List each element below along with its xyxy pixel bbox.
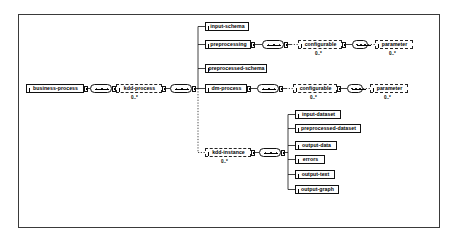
expander-dm-process[interactable] <box>247 86 251 92</box>
node-label: errors <box>303 157 318 162</box>
sequence-compositor-configurable-bottom[interactable] <box>347 84 363 93</box>
node-label: dm-process <box>212 86 242 91</box>
expander-business-process[interactable] <box>84 86 88 92</box>
node-label: input-schema <box>210 24 244 29</box>
sequence-compositor-kdd-process[interactable] <box>170 84 192 93</box>
element-marker-icon <box>298 128 300 132</box>
expander-kdd-process[interactable] <box>162 86 166 92</box>
node-kdd-process[interactable]: kdd-process <box>116 84 162 93</box>
node-parameter-top[interactable]: parameter <box>375 40 413 49</box>
element-marker-icon <box>208 88 210 92</box>
expander-kdd-instance[interactable] <box>251 150 255 156</box>
cardinality-kdd-process: 0..* <box>131 95 138 100</box>
sequence-compositor-business-process[interactable] <box>90 84 112 93</box>
node-label: kdd-process <box>124 86 155 91</box>
node-input-dataset[interactable]: input-dataset <box>295 110 341 119</box>
sequence-compositor-dm-process[interactable] <box>257 84 279 93</box>
node-parameter-bottom[interactable]: parameter <box>370 84 408 93</box>
node-label: parameter <box>377 86 403 91</box>
node-errors[interactable]: errors <box>295 155 325 164</box>
element-marker-icon <box>298 114 300 118</box>
node-configurable-bottom[interactable]: configurable <box>293 84 337 93</box>
expander-configurable-bottom[interactable] <box>337 86 341 92</box>
element-marker-icon <box>298 174 300 178</box>
connector-seq-kdd-process-out[interactable] <box>192 86 196 92</box>
element-marker-icon <box>301 44 303 48</box>
element-marker-icon <box>298 159 300 163</box>
node-label: output-graph <box>301 187 334 192</box>
element-marker-icon <box>119 88 121 92</box>
cardinality-parameter-top: 0..* <box>389 51 396 56</box>
connector-seq-dm-process-out[interactable] <box>279 86 283 92</box>
node-output-data[interactable]: output-data <box>295 141 337 150</box>
node-preprocessing[interactable]: preprocessing <box>205 40 251 49</box>
node-preprocessed-dataset[interactable]: preprocessed-dataset <box>295 124 361 133</box>
connector-seq-preprocessing-out[interactable] <box>284 42 288 48</box>
element-marker-icon <box>378 44 380 48</box>
node-output-text[interactable]: output-text <box>295 170 335 179</box>
sequence-compositor-kdd-instance[interactable] <box>259 148 281 157</box>
connector-seq-kdd-instance-out[interactable] <box>281 150 285 156</box>
node-label: output-data <box>302 143 331 148</box>
schema-diagram-page: business-process kdd-process 0..* input-… <box>0 0 458 240</box>
expander-preprocessing[interactable] <box>251 42 255 48</box>
node-label: kdd-instance <box>212 150 245 155</box>
element-marker-icon <box>296 88 298 92</box>
cardinality-kdd-instance: 0..* <box>221 159 228 164</box>
node-business-process[interactable]: business-process <box>26 84 84 93</box>
node-label: business-process <box>33 86 78 91</box>
sequence-compositor-preprocessing[interactable] <box>262 40 284 49</box>
cardinality-configurable-bottom: 0..* <box>310 95 317 100</box>
node-output-graph[interactable]: output-graph <box>295 185 339 194</box>
element-marker-icon <box>208 44 210 48</box>
cardinality-parameter-bottom: 0..* <box>384 95 391 100</box>
node-kdd-instance[interactable]: kdd-instance <box>205 148 251 157</box>
sequence-compositor-configurable-top[interactable] <box>352 40 368 49</box>
element-marker-icon <box>208 26 210 30</box>
element-marker-icon <box>298 145 300 149</box>
element-marker-icon <box>373 88 375 92</box>
connector-lines <box>0 0 458 240</box>
node-label: output-text <box>302 172 330 177</box>
node-label: preprocessing <box>210 42 246 47</box>
node-label: configurable <box>300 86 332 91</box>
expander-configurable-top[interactable] <box>342 42 346 48</box>
node-label: parameter <box>382 42 408 47</box>
cardinality-configurable-top: 0..* <box>315 51 322 56</box>
node-label: preprocessed-schema <box>208 66 264 71</box>
element-marker-icon <box>208 68 210 72</box>
element-marker-icon <box>29 88 31 92</box>
node-input-schema[interactable]: input-schema <box>205 22 249 31</box>
node-label: configurable <box>305 42 337 47</box>
node-preprocessed-schema[interactable]: preprocessed-schema <box>205 64 267 73</box>
node-label: input-dataset <box>302 112 335 117</box>
node-label: preprocessed-dataset <box>301 126 356 131</box>
node-configurable-top[interactable]: configurable <box>298 40 342 49</box>
node-dm-process[interactable]: dm-process <box>205 84 247 93</box>
element-marker-icon <box>208 152 210 156</box>
element-marker-icon <box>298 189 300 193</box>
